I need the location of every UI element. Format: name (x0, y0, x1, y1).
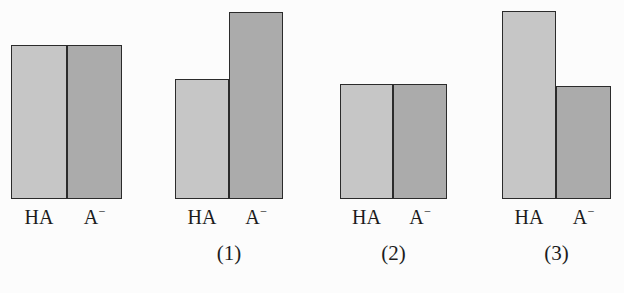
caption-panel-2: (2) (340, 243, 447, 264)
caption-panel-1: (1) (175, 243, 283, 264)
axis-label-panel-3-a-minus: A− (556, 207, 611, 227)
axis-label-panel-0-ha: HA (11, 207, 67, 227)
axis-label-panel-0-a-minus: A− (67, 207, 122, 227)
axis-label-panel-1-ha: HA (175, 207, 229, 227)
bar-panel-0-ha (11, 45, 67, 199)
caption-panel-3: (3) (502, 243, 611, 264)
axis-labels-panel-1: HA A− (175, 207, 283, 227)
axis-labels-panel-0: HA A− (11, 207, 122, 227)
bar-panel-1-ha (175, 79, 229, 199)
bar-panel-2-a-minus (393, 84, 447, 199)
axis-label-panel-1-a-minus: A− (229, 207, 283, 227)
bar-panel-0-a-minus (67, 45, 122, 199)
axis-label-panel-2-ha: HA (340, 207, 393, 227)
bar-panel-3-ha (502, 11, 556, 199)
bar-panel-2-ha (340, 84, 393, 199)
acid-base-bar-chart-figure: HA A− HA A− (1) HA A− (2) HA A− (3) (0, 0, 624, 293)
axis-labels-panel-3: HA A− (502, 207, 611, 227)
bar-panel-3-a-minus (556, 86, 611, 199)
axis-labels-panel-2: HA A− (340, 207, 447, 227)
axis-label-panel-3-ha: HA (502, 207, 556, 227)
bar-panel-1-a-minus (229, 12, 283, 199)
axis-label-panel-2-a-minus: A− (393, 207, 447, 227)
